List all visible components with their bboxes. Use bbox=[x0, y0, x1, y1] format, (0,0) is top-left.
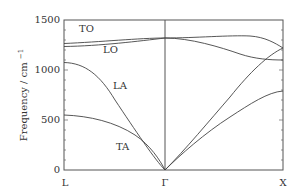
y-axis-title-exponent: −1 bbox=[17, 49, 25, 59]
label-TA: TA bbox=[116, 141, 130, 152]
dispersion-curves bbox=[64, 36, 283, 170]
label-TO: TO bbox=[79, 23, 94, 34]
y-axis-title: Frequency / cm −1 bbox=[17, 49, 29, 141]
ytick-0: 0 bbox=[54, 164, 60, 175]
ytick-500: 500 bbox=[41, 114, 60, 125]
left-ticks bbox=[64, 30, 68, 160]
phonon-dispersion-chart: 0 500 1000 1500 L Γ X Frequency / cm −1 … bbox=[0, 0, 301, 196]
branch-TO bbox=[64, 36, 283, 48]
xlabel-L: L bbox=[62, 177, 69, 188]
branch-TA bbox=[64, 91, 283, 170]
ytick-1500: 1500 bbox=[35, 14, 60, 25]
label-LO: LO bbox=[103, 44, 118, 55]
svg-text:Frequency / cm −1: Frequency / cm −1 bbox=[17, 49, 29, 141]
xlabel-X: X bbox=[279, 177, 287, 188]
plot-frame bbox=[64, 20, 283, 170]
xlabel-gamma: Γ bbox=[162, 177, 169, 188]
label-LA: LA bbox=[113, 80, 128, 91]
y-axis-title-text: Frequency / cm bbox=[18, 62, 29, 141]
branch-LA bbox=[64, 48, 283, 170]
ytick-1000: 1000 bbox=[35, 64, 60, 75]
